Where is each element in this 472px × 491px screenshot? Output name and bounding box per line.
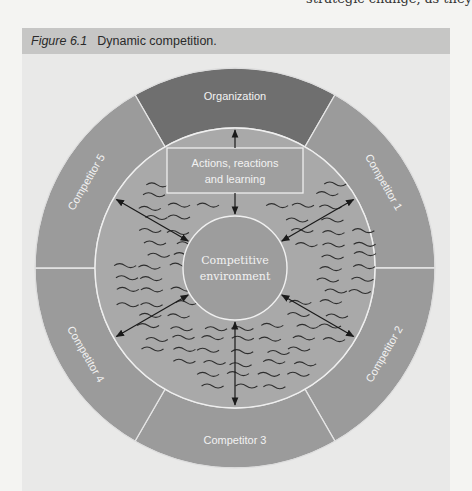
actions-box-line2: and learning <box>205 173 266 185</box>
actions-box-line1: Actions, reactions <box>192 157 279 169</box>
center-label-line2: environment <box>200 270 271 283</box>
actions-box <box>167 148 303 193</box>
dynamic-competition-diagram: Actions, reactions and learning Competit… <box>0 0 472 491</box>
center-label-line1: Competitive <box>201 254 269 267</box>
competitive-environment-circle <box>183 216 287 320</box>
label-competitor-3: Competitor 3 <box>204 434 267 446</box>
label-organization: Organization <box>204 90 266 102</box>
